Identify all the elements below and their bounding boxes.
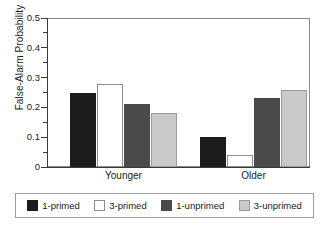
bar-younger-1-unprimed [124,104,150,167]
bar-younger-3-unprimed [151,113,177,167]
bar-older-3-unprimed [281,90,307,167]
bars-container [48,18,310,167]
y-tick-label: 0.5 [0,13,40,23]
x-axis-line [47,167,310,168]
y-tick-major [41,77,47,78]
x-axis-label-younger: Younger [60,170,187,181]
bar-younger-1-primed [70,93,96,168]
bar-older-1-primed [200,137,226,167]
legend-label: 1-primed [42,200,80,211]
legend-item-1-unprimed: 1-unprimed [161,200,224,211]
y-tick-major [41,167,47,168]
y-tick-minor [43,62,47,63]
y-tick-label: 0.3 [0,73,40,83]
y-tick-major [41,47,47,48]
legend-swatch-icon [27,200,38,211]
legend-swatch-icon [161,200,172,211]
x-axis-label-older: Older [190,170,317,181]
legend-item-1-primed: 1-primed [27,200,80,211]
legend-label: 1-unprimed [176,200,224,211]
y-tick-minor [43,152,47,153]
y-tick-major [41,107,47,108]
bar-older-1-unprimed [254,98,280,167]
y-tick-minor [43,32,47,33]
chart-figure: False-Alarm Probability 00.10.20.30.40.5… [0,0,329,232]
y-tick-major [41,137,47,138]
y-tick-major [41,18,47,19]
legend-label: 3-unprimed [254,200,302,211]
legend-swatch-icon [94,200,105,211]
legend-item-3-unprimed: 3-unprimed [239,200,302,211]
legend: 1-primed3-primed1-unprimed3-unprimed [15,193,314,218]
y-tick-label: 0 [0,162,40,172]
bar-older-3-primed [227,155,253,167]
y-tick-label: 0.2 [0,102,40,112]
legend-item-3-primed: 3-primed [94,200,147,211]
bar-younger-3-primed [97,84,123,167]
y-tick-label: 0.1 [0,132,40,142]
legend-label: 3-primed [109,200,147,211]
y-tick-label: 0.4 [0,43,40,53]
y-tick-minor [43,122,47,123]
y-tick-minor [43,92,47,93]
legend-swatch-icon [239,200,250,211]
